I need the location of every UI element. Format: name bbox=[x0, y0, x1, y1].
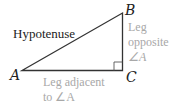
hypotenuse-label: Hypotenuse bbox=[13, 27, 75, 40]
adjacent-line-2: to ∠A bbox=[43, 90, 105, 105]
opposite-leg-label: Leg opposite ∠A bbox=[128, 20, 169, 65]
vertex-a-label: A bbox=[10, 68, 20, 82]
adjacent-leg-label: Leg adjacent to ∠A bbox=[43, 75, 105, 105]
adjacent-line-1: Leg adjacent bbox=[43, 75, 105, 90]
right-angle-marker bbox=[114, 62, 123, 71]
vertex-b-label: B bbox=[125, 3, 135, 17]
vertex-c-label: C bbox=[126, 70, 137, 84]
right-triangle-diagram: Hypotenuse B A C Leg opposite ∠A Leg adj… bbox=[0, 0, 186, 111]
opposite-line-2: opposite bbox=[128, 35, 169, 50]
opposite-line-3: ∠A bbox=[128, 50, 169, 65]
opposite-line-1: Leg bbox=[128, 20, 169, 35]
triangle-outline bbox=[22, 13, 123, 71]
